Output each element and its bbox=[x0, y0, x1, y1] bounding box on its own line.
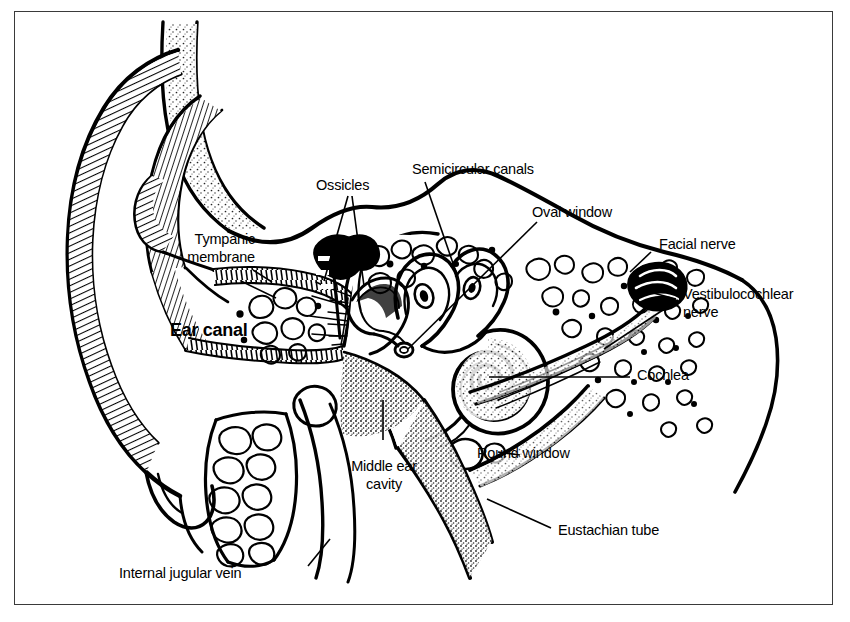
label-vestibulocochlear-nerve-line2: nerve bbox=[683, 304, 718, 321]
label-vestibulocochlear-nerve-line1: Vestibulocochlear bbox=[683, 286, 793, 303]
ear-anatomy-drawing bbox=[0, 0, 850, 622]
label-cochlea: Cochlea bbox=[637, 367, 689, 384]
label-tympanic-membrane-line2: membrane bbox=[135, 249, 255, 266]
label-tympanic-membrane-line1: Tympanic bbox=[135, 231, 255, 248]
label-middle-ear-cavity-line2: cavity bbox=[328, 476, 440, 493]
label-internal-jugular-vein: Internal jugular vein bbox=[119, 565, 241, 582]
label-oval-window: Oval window bbox=[532, 204, 612, 221]
label-ear-canal: Ear canal bbox=[170, 322, 247, 339]
label-semicircular-canals: Semicircular canals bbox=[412, 161, 534, 178]
label-middle-ear-cavity-line1: Middle ear bbox=[328, 458, 440, 475]
ear-anatomy-figure: Ear canal Tympanic membrane Ossicles Sem… bbox=[0, 0, 850, 622]
label-facial-nerve: Facial nerve bbox=[659, 236, 736, 253]
label-ossicles: Ossicles bbox=[316, 177, 369, 194]
label-round-window: Round window bbox=[477, 445, 570, 462]
label-eustachian-tube: Eustachian tube bbox=[558, 522, 659, 539]
